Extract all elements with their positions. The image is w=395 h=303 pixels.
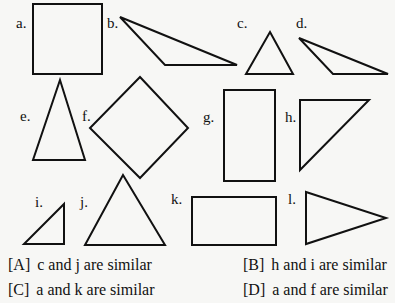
option-d[interactable]: [D]a and f are similar (243, 281, 388, 299)
label-f: f. (82, 109, 91, 124)
option-c[interactable]: [C]a and k are similar (8, 281, 155, 299)
option-d-key: [D] (243, 281, 265, 298)
label-h: h. (285, 110, 296, 125)
option-c-key: [C] (8, 281, 29, 298)
label-g: g. (203, 110, 214, 125)
label-d: d. (296, 16, 307, 31)
label-c: c. (237, 16, 247, 31)
option-b[interactable]: [B]h and i are similar (243, 256, 387, 274)
label-l: l. (288, 192, 296, 207)
shape-k-rectangle (192, 197, 276, 245)
shape-j-triangle (85, 175, 165, 245)
label-k: k. (171, 192, 182, 207)
label-j: j. (80, 195, 88, 210)
shape-d-triangle (299, 38, 388, 74)
shape-h-triangle (300, 100, 369, 170)
label-e: e. (20, 109, 30, 124)
shape-l-triangle (306, 192, 386, 244)
option-b-key: [B] (243, 256, 264, 273)
shape-i-triangle (24, 204, 64, 244)
label-a: a. (16, 16, 26, 31)
option-a-text: c and j are similar (37, 256, 152, 273)
shape-c-triangle (246, 32, 293, 74)
shape-b-triangle (120, 17, 237, 65)
option-a[interactable]: [A]c and j are similar (8, 256, 152, 274)
option-d-text: a and f are similar (272, 281, 388, 298)
shape-f-diamond (90, 77, 188, 178)
option-b-text: h and i are similar (271, 256, 387, 273)
label-i: i. (35, 195, 43, 210)
shape-g-rectangle (224, 90, 275, 181)
shape-e-triangle (33, 80, 85, 160)
option-a-key: [A] (8, 256, 30, 273)
shape-a-square (33, 4, 102, 74)
option-c-text: a and k are similar (36, 281, 154, 298)
label-b: b. (107, 16, 118, 31)
